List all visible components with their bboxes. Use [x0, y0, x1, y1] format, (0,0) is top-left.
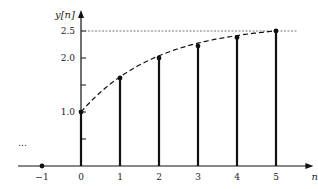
x-axis-arrow-icon: [305, 163, 313, 169]
x-tick-label: 2: [156, 172, 162, 182]
x-tick-label: 0: [78, 172, 84, 182]
stem-marker: [235, 35, 240, 40]
y-tick-label: 2.5: [61, 26, 76, 36]
stem-marker: [157, 56, 162, 61]
y-axis-arrow-icon: [78, 10, 84, 18]
stem-marker: [196, 44, 201, 49]
plot-canvas: ny[n]1.02.02.5−1012345…: [0, 0, 318, 189]
y-tick-label: 1.0: [61, 107, 76, 117]
x-tick-label: 3: [195, 172, 201, 182]
stem-plot: ny[n]1.02.02.5−1012345…: [0, 0, 318, 189]
y-axis-label: y[n]: [54, 9, 75, 20]
x-axis-label: n: [311, 171, 317, 182]
stem-marker: [118, 76, 123, 81]
x-tick-label: −1: [35, 172, 48, 182]
stem-marker: [274, 29, 279, 34]
x-tick-label: 5: [273, 172, 279, 182]
x-tick-label: 1: [117, 172, 123, 182]
envelope-curve: [81, 31, 276, 112]
x-tick-label: 4: [234, 172, 240, 182]
left-ellipsis: …: [18, 138, 27, 148]
y-tick-label: 2.0: [61, 53, 76, 63]
stem-marker: [40, 164, 45, 169]
stem-marker: [79, 110, 84, 115]
